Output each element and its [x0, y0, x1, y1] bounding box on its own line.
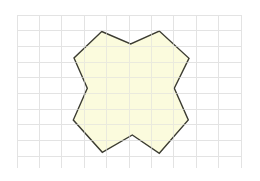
- four-pointed-star-polygon: [73, 31, 189, 153]
- geometry-canvas: [0, 0, 260, 181]
- figure-svg: [0, 0, 260, 181]
